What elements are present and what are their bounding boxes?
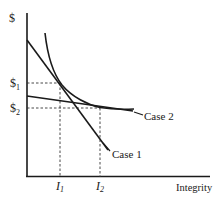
case1-line	[27, 40, 108, 150]
x-tick-i2-sub: 2	[100, 185, 104, 194]
x-tick-i1-sub: 1	[60, 185, 64, 194]
x-tick-i1: I1	[55, 179, 64, 194]
y-tick-s2: $2	[10, 101, 20, 117]
y-tick-s2-sub: 2	[16, 108, 20, 117]
diagram-canvas: $ Integrity $1 $2 I1 I2 Case 2 Case 1	[0, 0, 221, 201]
y-tick-s1: $1	[10, 76, 20, 92]
y-tick-s1-sub: 1	[16, 83, 20, 92]
x-tick-i2: I2	[95, 179, 104, 194]
y-axis-label: $	[9, 11, 15, 25]
case2-label: Case 2	[144, 110, 174, 122]
x-axis-label: Integrity	[176, 182, 213, 193]
indifference-curve	[45, 33, 134, 109]
case2-leader	[134, 112, 143, 115]
case1-leader	[103, 143, 110, 151]
case1-label: Case 1	[112, 148, 142, 160]
